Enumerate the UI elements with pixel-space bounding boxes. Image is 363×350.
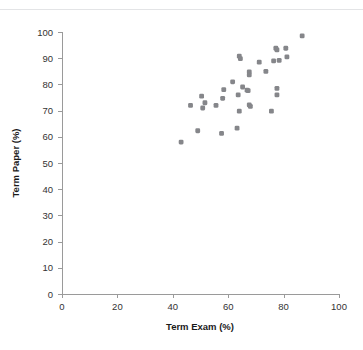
data-point (199, 94, 204, 99)
x-tick-label: 20 (112, 301, 123, 312)
x-tick-label: 40 (168, 301, 179, 312)
x-tick-label: 80 (278, 301, 289, 312)
y-tick-label: 30 (42, 210, 53, 221)
y-tick-label: 10 (42, 262, 53, 273)
data-point (248, 104, 253, 109)
data-point (271, 58, 276, 63)
data-point-group (179, 34, 305, 145)
data-point (257, 60, 262, 65)
data-point (188, 103, 193, 108)
y-tick-label: 0 (48, 289, 53, 300)
y-axis-tick-labels: 0102030405060708090100 (37, 27, 53, 300)
data-point (230, 79, 235, 84)
data-point (219, 131, 224, 136)
x-tick-label: 0 (59, 301, 64, 312)
data-point (214, 103, 219, 108)
data-point (237, 109, 242, 114)
data-point (220, 96, 225, 101)
x-tick-label: 100 (331, 301, 347, 312)
data-point (269, 109, 274, 114)
data-point (235, 126, 240, 131)
data-point (277, 58, 282, 63)
data-point (246, 88, 251, 93)
data-point (195, 128, 200, 133)
data-point (200, 106, 205, 111)
y-tick-label: 60 (42, 131, 53, 142)
data-point (300, 34, 305, 39)
data-point (221, 87, 226, 92)
y-axis-label: Term Paper (%) (10, 129, 21, 198)
data-point (203, 100, 208, 105)
data-point (179, 140, 184, 145)
data-point (247, 73, 252, 78)
data-point (275, 86, 280, 91)
data-point (240, 85, 245, 90)
data-point (275, 47, 280, 52)
y-tick-label: 70 (42, 105, 53, 116)
scatter-plot-figure: 0102030405060708090100 020406080100 Term… (0, 0, 363, 350)
data-point (285, 54, 290, 59)
scatter-plot-canvas: 0102030405060708090100 020406080100 Term… (0, 0, 363, 350)
y-axis-tick-marks (58, 33, 62, 295)
x-axis-label: Term Exam (%) (166, 321, 234, 332)
y-tick-label: 20 (42, 236, 53, 247)
data-point (263, 69, 268, 74)
data-point (238, 56, 243, 61)
y-tick-label: 80 (42, 79, 53, 90)
y-tick-label: 100 (37, 27, 53, 38)
data-point (275, 92, 280, 97)
y-tick-label: 90 (42, 53, 53, 64)
x-tick-label: 60 (223, 301, 234, 312)
y-tick-label: 40 (42, 184, 53, 195)
y-tick-label: 50 (42, 158, 53, 169)
data-point (236, 92, 241, 97)
data-point (283, 46, 288, 51)
x-axis-tick-labels: 020406080100 (59, 301, 347, 312)
